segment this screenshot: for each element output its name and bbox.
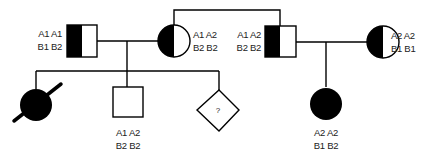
male-symbol-gen1-left: [67, 25, 97, 57]
genotype-line-a: A1 A2: [193, 28, 217, 41]
male-symbol-gen1-right: [265, 26, 296, 57]
female-symbol-gen1-left: [158, 25, 190, 57]
genotype-line-b: B2 B2: [108, 139, 148, 152]
genotype-label-gen1-female-left: A1 A2 B2 B2: [193, 28, 217, 54]
genotype-label-gen1-male-right: A1 A2 B2 B2: [237, 28, 261, 54]
female-symbol-deceased: [14, 84, 61, 121]
male-symbol-gen2: [113, 87, 143, 117]
genotype-line-b: B1 B2: [306, 139, 346, 152]
sibling-connector-line: [174, 10, 280, 26]
genotype-label-gen1-female-right: A2 A2 B1 B1: [391, 29, 415, 55]
genotype-label-gen2-male: A1 A2 B2 B2: [108, 126, 148, 152]
genotype-line-a: A2 A2: [306, 126, 346, 139]
pedigree-diagram: ?: [0, 0, 425, 156]
genotype-label-gen1-male-left: A1 A1 B1 B2: [38, 27, 62, 53]
genotype-line-a: A2 A2: [391, 29, 415, 42]
unknown-sex-symbol: ?: [197, 90, 239, 131]
female-symbol-gen2-affected: [310, 88, 342, 120]
genotype-label-gen2-female-right: A2 A2 B1 B2: [306, 126, 346, 152]
genotype-line-a: A1 A1: [38, 27, 62, 40]
genotype-line-b: B1 B2: [38, 40, 62, 53]
genotype-line-a: A1 A2: [237, 28, 261, 41]
genotype-line-b: B2 B2: [237, 41, 261, 54]
genotype-line-b: B1 B1: [391, 42, 415, 55]
genotype-line-a: A1 A2: [108, 126, 148, 139]
unknown-question-mark: ?: [216, 106, 221, 115]
genotype-line-b: B2 B2: [193, 41, 217, 54]
